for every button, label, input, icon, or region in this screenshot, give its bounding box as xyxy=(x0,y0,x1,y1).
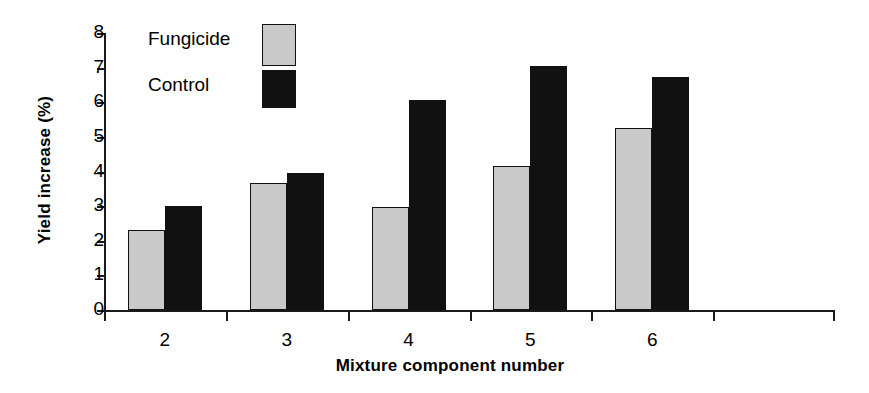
legend-label-fungicide: Fungicide xyxy=(148,28,230,50)
bar-chart-figure: Yield increase (%) Mixture component num… xyxy=(0,0,869,393)
legend-label-control: Control xyxy=(148,74,209,96)
bar-fungicide-3 xyxy=(250,183,287,310)
x-tick-label: 3 xyxy=(257,329,317,351)
x-tick-label: 5 xyxy=(500,329,560,351)
x-axis-title: Mixture component number xyxy=(100,356,800,376)
bar-control-5 xyxy=(530,66,567,310)
bar-control-4 xyxy=(409,100,446,310)
bar-fungicide-5 xyxy=(493,166,530,310)
bar-fungicide-6 xyxy=(615,128,652,310)
x-tick-mark xyxy=(470,312,472,321)
x-tick-label: 4 xyxy=(379,329,439,351)
y-tick-label: 2 xyxy=(93,230,104,250)
x-tick-mark xyxy=(348,312,350,321)
x-tick-mark xyxy=(104,312,106,321)
y-axis-line xyxy=(104,33,106,311)
x-tick-label: 6 xyxy=(622,329,682,351)
y-tick-label: 4 xyxy=(93,161,104,181)
y-axis-title: Yield increase (%) xyxy=(35,20,55,320)
bar-control-3 xyxy=(287,173,324,310)
bar-fungicide-4 xyxy=(372,207,409,310)
bar-fungicide-2 xyxy=(128,230,165,310)
x-tick-label: 2 xyxy=(135,329,195,351)
x-tick-mark xyxy=(713,312,715,321)
plot-area: 012345678 23456 xyxy=(104,33,835,310)
y-tick-label: 8 xyxy=(93,22,104,42)
black-swatch-icon xyxy=(262,70,296,108)
x-axis-end-tick xyxy=(833,312,835,321)
y-tick-label: 3 xyxy=(93,195,104,215)
x-tick-mark xyxy=(591,312,593,321)
y-tick-label: 1 xyxy=(93,264,104,284)
light-gray-swatch-icon xyxy=(262,24,296,66)
bar-control-2 xyxy=(165,206,202,310)
y-tick-label: 6 xyxy=(93,91,104,111)
x-tick-mark xyxy=(226,312,228,321)
bar-control-6 xyxy=(652,77,689,310)
y-tick-label: 0 xyxy=(93,299,104,319)
y-tick-label: 5 xyxy=(93,126,104,146)
y-tick-label: 7 xyxy=(93,57,104,77)
